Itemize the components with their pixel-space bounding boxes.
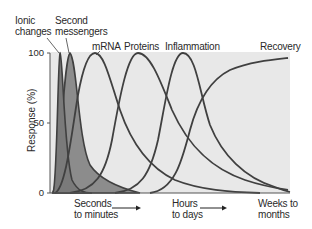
time-label-weeks-line1: Weeks to <box>258 198 298 209</box>
time-label-weeks: Weeks to months <box>258 198 298 220</box>
time-label-hours: Hours to days <box>172 198 203 220</box>
y-tick-label-100: 100 <box>22 47 44 58</box>
time-label-hours-line2: to days <box>172 209 203 220</box>
time-label-weeks-line2: months <box>258 209 298 220</box>
ionic-label-line2: changes <box>15 26 51 37</box>
inflammation-label: Inflammation <box>165 41 220 52</box>
ionic-leader <box>47 38 59 53</box>
second-label-line2: messengers <box>55 26 107 37</box>
time-label-seconds-line1: Seconds <box>74 198 118 209</box>
ionic-label-line1: Ionic <box>15 15 51 26</box>
ionic-label: Ionic changes <box>15 15 51 37</box>
proteins-label: Proteins <box>124 41 159 52</box>
time-label-seconds: Seconds to minutes <box>74 198 118 220</box>
arrow-2-head <box>222 206 227 211</box>
mrna-label: mRNA <box>92 41 121 52</box>
y-tick-label-0: 0 <box>22 187 44 198</box>
recovery-label: Recovery <box>260 41 301 52</box>
y-axis-title: Response (%) <box>26 89 37 152</box>
second-leader <box>66 38 69 53</box>
arrow-1-head <box>136 206 141 211</box>
time-label-seconds-line2: to minutes <box>74 209 118 220</box>
second-messengers-label: Second messengers <box>55 15 107 37</box>
time-label-hours-line1: Hours <box>172 198 203 209</box>
second-label-line1: Second <box>55 15 107 26</box>
